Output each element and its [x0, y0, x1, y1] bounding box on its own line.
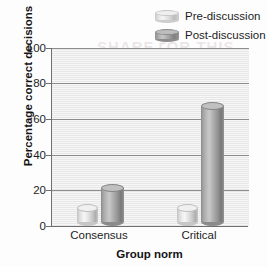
legend-item-post-discussion: Post-discussion [155, 27, 267, 44]
y-tick-label-80: 80 [18, 78, 46, 90]
cylinder-dark-icon [155, 29, 179, 42]
bar-chart-figure: ƧIHT ЯO٦ ƎЯAHƧ ƎVITAƆIИUMMOƆ Pre-discuss… [0, 0, 267, 267]
y-tick-label-20: 20 [18, 185, 46, 197]
x-tick-label-critical: Critical [154, 230, 244, 242]
x-tick-label-consensus: Consensus [54, 230, 144, 242]
y-tick-label-100: 100 [18, 43, 46, 55]
bar-consensus-post-discussion [101, 184, 124, 226]
x-axis-title: Group norm [51, 248, 248, 260]
plot-area [51, 48, 249, 226]
chart-legend: Pre-discussion Post-discussion [155, 8, 267, 46]
y-tick-label-60: 60 [18, 114, 46, 126]
bar-critical-pre-discussion [177, 204, 198, 226]
bar-consensus-pre-discussion [77, 204, 98, 226]
legend-label-post-discussion: Post-discussion [185, 30, 266, 42]
bar-critical-post-discussion [201, 102, 224, 226]
cylinder-light-icon [155, 10, 179, 23]
gridline-80 [52, 83, 249, 84]
gridline-100 [52, 48, 249, 49]
y-tick-label-40: 40 [18, 150, 46, 162]
y-tick-label-0: 0 [18, 221, 46, 233]
x-axis-line [51, 226, 248, 227]
legend-item-pre-discussion: Pre-discussion [155, 8, 267, 25]
legend-label-pre-discussion: Pre-discussion [185, 11, 260, 23]
